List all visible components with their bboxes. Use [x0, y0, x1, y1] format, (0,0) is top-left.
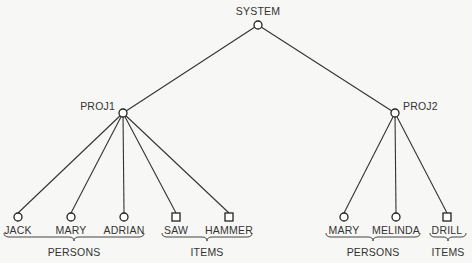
edge-proj2-mary2 [344, 113, 395, 213]
edge-system-proj1 [123, 25, 258, 113]
mary1-label: MARY [56, 224, 87, 236]
melinda-node-icon [392, 213, 400, 221]
items1-group-label: ITEMS [190, 246, 223, 258]
edge-proj2-drill [395, 113, 447, 213]
mary1-node-icon [67, 213, 75, 221]
edge-proj1-jack [18, 113, 123, 213]
proj2-node-icon [391, 109, 399, 117]
saw-node-icon [172, 213, 180, 221]
system-node-icon [254, 21, 262, 29]
jack-label: JACK [4, 224, 32, 236]
persons2-group-label: PERSONS [347, 246, 400, 258]
saw-label: SAW [164, 224, 188, 236]
adrian-label: ADRIAN [104, 224, 145, 236]
hammer-label: HAMMER [205, 224, 253, 236]
jack-node-icon [14, 213, 22, 221]
proj1-label: PROJ1 [80, 100, 115, 112]
edge-proj2-melinda [395, 113, 396, 213]
edge-proj1-mary1 [71, 113, 123, 213]
edge-proj1-saw [123, 113, 176, 213]
drill-node-icon [443, 213, 451, 221]
persons1-group-label: PERSONS [48, 246, 101, 258]
hierarchy-diagram: SYSTEMPROJ1PROJ2JACKMARYADRIANSAWHAMMERM… [0, 0, 472, 263]
items2-group-label: ITEMS [431, 246, 464, 258]
nodes [14, 21, 451, 221]
edge-system-proj2 [258, 25, 395, 113]
edges [18, 25, 447, 213]
mary2-node-icon [340, 213, 348, 221]
edge-proj1-hammer [123, 113, 229, 213]
proj1-node-icon [119, 109, 127, 117]
edge-proj1-adrian [123, 113, 124, 213]
drill-label: DRILL [432, 224, 463, 236]
system-label: SYSTEM [236, 5, 280, 17]
proj2-label: PROJ2 [403, 100, 438, 112]
mary2-label: MARY [329, 224, 360, 236]
adrian-node-icon [120, 213, 128, 221]
hammer-node-icon [225, 213, 233, 221]
melinda-label: MELINDA [372, 224, 420, 236]
